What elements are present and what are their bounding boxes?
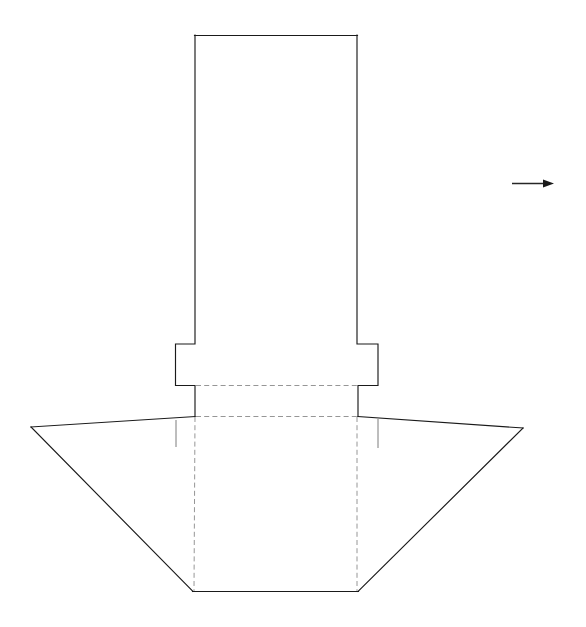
technical-drawing-canvas: [0, 0, 586, 627]
elevation-drawing: [0, 0, 586, 627]
